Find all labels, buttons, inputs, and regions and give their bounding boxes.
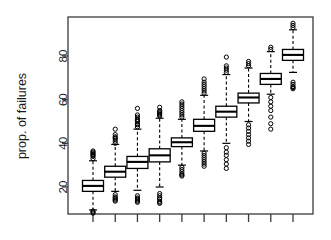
y-axis-title: prop. of failures xyxy=(15,73,29,159)
outlier-point xyxy=(224,158,228,162)
boxplot-box xyxy=(105,127,126,203)
boxplot-box xyxy=(127,106,148,204)
outlier-point xyxy=(224,146,228,150)
outlier-point xyxy=(269,115,273,119)
outlier-point xyxy=(113,127,117,131)
boxplot-box xyxy=(260,45,281,131)
x-axis-ticks xyxy=(93,214,293,222)
outlier-point xyxy=(224,162,228,166)
outlier-point xyxy=(269,104,273,108)
plot-frame xyxy=(68,17,313,214)
outlier-point xyxy=(269,95,273,99)
outlier-point xyxy=(269,108,273,112)
outlier-point xyxy=(135,106,139,110)
outlier-point xyxy=(269,127,273,131)
boxplot-box xyxy=(83,149,104,215)
y-axis-label-text: prop. of failures xyxy=(15,73,29,159)
y-tick-label: 20 xyxy=(57,181,69,194)
boxplot-figure: prop. of failures 20406080 xyxy=(0,0,331,240)
y-tick-label: 40 xyxy=(57,137,69,150)
outlier-point xyxy=(224,166,228,170)
y-axis-ticks: 20406080 xyxy=(57,50,69,194)
outlier-point xyxy=(269,122,273,126)
boxplot-box xyxy=(171,100,192,178)
boxplot-box xyxy=(238,59,259,146)
y-tick-label: 60 xyxy=(57,93,69,106)
boxplot-series xyxy=(83,21,304,215)
boxplot-box xyxy=(149,105,170,205)
y-tick-label: 80 xyxy=(57,50,69,63)
boxplot-box xyxy=(194,77,215,169)
outlier-point xyxy=(269,100,273,104)
boxplot-box xyxy=(283,21,304,91)
boxplot-chart: prop. of failures 20406080 xyxy=(0,0,331,240)
boxplot-box xyxy=(216,55,237,171)
outlier-point xyxy=(224,55,228,59)
